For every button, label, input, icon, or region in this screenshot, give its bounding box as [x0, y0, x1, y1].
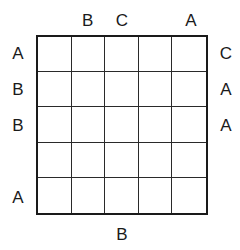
grid-cell-r2-c4[interactable] [139, 72, 173, 107]
clue-left-5: A [8, 189, 28, 206]
grid-cell-r3-c5[interactable] [172, 107, 206, 142]
grid-cell-r1-c2[interactable] [72, 37, 106, 72]
grid-cell-r4-c2[interactable] [72, 143, 106, 178]
grid-cell-r5-c2[interactable] [72, 178, 106, 213]
grid-cell-r2-c3[interactable] [105, 72, 139, 107]
grid-cell-r2-c1[interactable] [38, 72, 72, 107]
grid-cell-r2-c2[interactable] [72, 72, 106, 107]
grid-cell-r4-c5[interactable] [172, 143, 206, 178]
puzzle-grid [36, 35, 208, 215]
grid-cell-r4-c3[interactable] [105, 143, 139, 178]
grid-cell-r2-c5[interactable] [172, 72, 206, 107]
clue-top-2: B [78, 12, 98, 29]
grid-cell-r5-c1[interactable] [38, 178, 72, 213]
grid-cell-r5-c3[interactable] [105, 178, 139, 213]
grid-cell-r3-c2[interactable] [72, 107, 106, 142]
clue-left-1: A [8, 45, 28, 62]
grid-cell-r1-c1[interactable] [38, 37, 72, 72]
grid-cell-r3-c1[interactable] [38, 107, 72, 142]
grid-cell-r1-c4[interactable] [139, 37, 173, 72]
grid-cell-r3-c4[interactable] [139, 107, 173, 142]
clue-right-3: A [216, 117, 236, 134]
clue-left-2: B [8, 81, 28, 98]
clue-top-3: C [112, 12, 132, 29]
grid-cell-r4-c4[interactable] [139, 143, 173, 178]
grid-cell-r3-c3[interactable] [105, 107, 139, 142]
grid-cell-r4-c1[interactable] [38, 143, 72, 178]
clue-bottom-3: B [112, 226, 132, 243]
grid-cell-r5-c4[interactable] [139, 178, 173, 213]
grid-cell-r1-c5[interactable] [172, 37, 206, 72]
clue-left-3: B [8, 117, 28, 134]
grid-cell-r1-c3[interactable] [105, 37, 139, 72]
clue-right-1: C [216, 45, 236, 62]
clue-right-2: A [216, 81, 236, 98]
clue-top-5: A [181, 12, 201, 29]
grid-cell-r5-c5[interactable] [172, 178, 206, 213]
